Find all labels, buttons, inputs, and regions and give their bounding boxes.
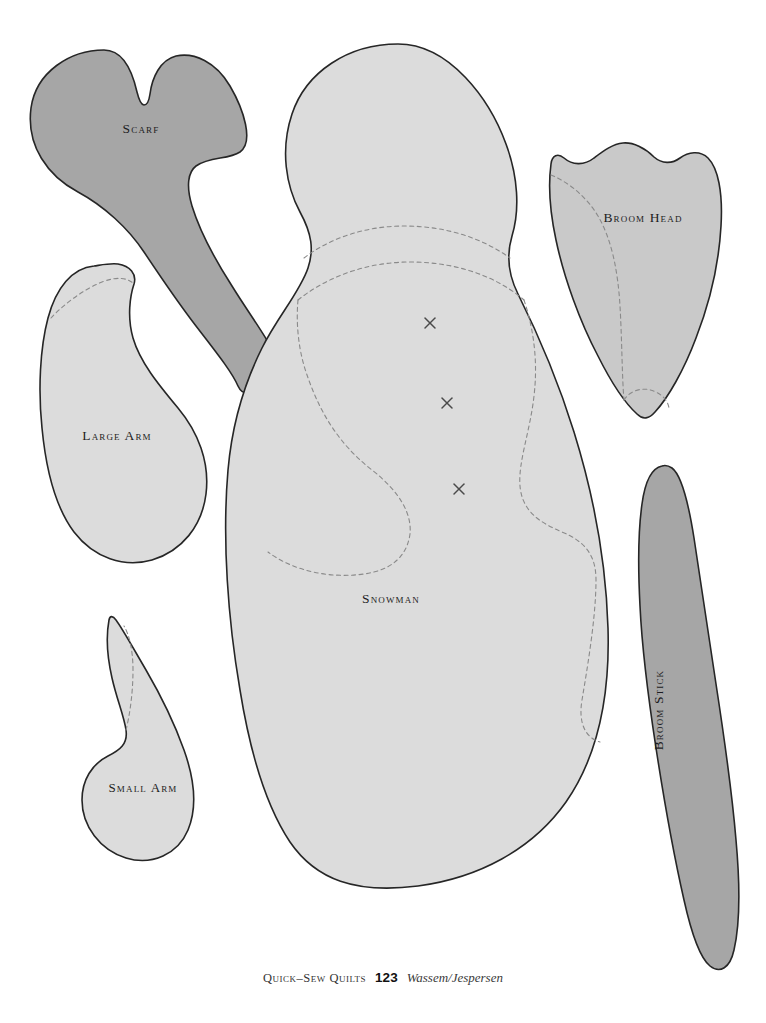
snowman-label: Snowman	[362, 591, 420, 606]
pattern-pieces-svg: Scarf Large Arm Small Arm	[0, 0, 766, 1023]
small-arm-outline	[82, 617, 194, 861]
piece-broom-stick[interactable]: Broom Stick	[639, 466, 739, 970]
footer-page-number: 123	[375, 970, 398, 985]
small-arm-label: Small Arm	[108, 780, 177, 795]
piece-small-arm[interactable]: Small Arm	[82, 617, 194, 861]
footer-credit: Wassem/Jespersen	[407, 970, 503, 985]
pattern-sheet: Scarf Large Arm Small Arm	[0, 0, 766, 1023]
piece-broom-head[interactable]: Broom Head	[550, 143, 722, 418]
broom-stick-label: Broom Stick	[651, 670, 666, 751]
scarf-label: Scarf	[123, 121, 160, 136]
footer-book-title: Quick–Sew Quilts	[263, 971, 366, 985]
broom-head-label: Broom Head	[603, 210, 682, 225]
piece-large-arm[interactable]: Large Arm	[40, 264, 207, 563]
large-arm-outline	[40, 264, 207, 563]
large-arm-label: Large Arm	[82, 428, 151, 443]
page-footer: Quick–Sew Quilts123Wassem/Jespersen	[0, 968, 766, 986]
broom-head-outline	[550, 143, 722, 418]
